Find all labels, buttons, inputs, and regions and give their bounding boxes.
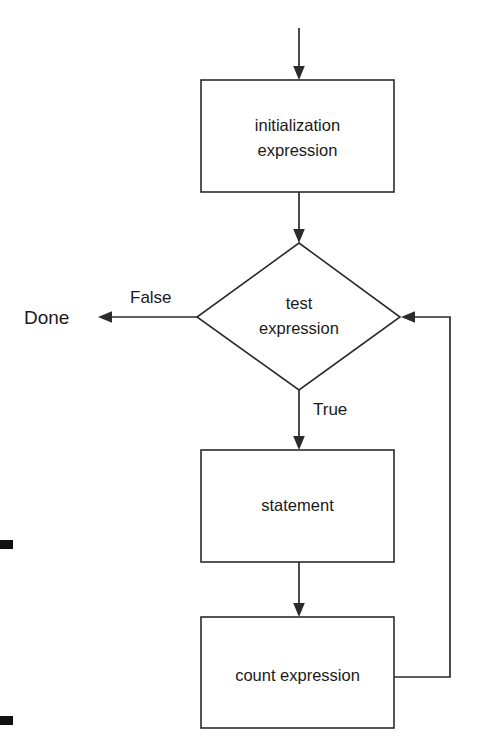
connector-statement-to-count bbox=[293, 562, 305, 617]
crop-mark-lower bbox=[0, 716, 13, 725]
node-count-expression-label: count expression bbox=[235, 666, 360, 684]
connector-entry-to-initialization bbox=[293, 28, 305, 80]
edge-label-true: True bbox=[313, 400, 347, 419]
terminal-label-done: Done bbox=[24, 307, 69, 328]
node-initialization-label-line1: initialization bbox=[255, 116, 340, 134]
edge-label-false: False bbox=[130, 288, 172, 307]
connector-test-to-done bbox=[98, 311, 197, 323]
node-statement-label: statement bbox=[261, 496, 334, 514]
node-test-label-line2: expression bbox=[259, 319, 339, 337]
node-test-expression[interactable]: test expression bbox=[197, 243, 400, 390]
crop-mark-upper bbox=[0, 540, 13, 549]
connector-count-to-test-loop bbox=[393, 311, 450, 677]
flowchart-diagram: initialization expression test expressio… bbox=[0, 0, 483, 756]
node-initialization-expression[interactable]: initialization expression bbox=[201, 80, 394, 192]
node-initialization-label-line2: expression bbox=[258, 141, 338, 159]
node-count-expression[interactable]: count expression bbox=[201, 617, 394, 728]
node-test-label-line1: test bbox=[286, 294, 313, 312]
node-statement[interactable]: statement bbox=[201, 450, 394, 562]
flowchart-canvas: initialization expression test expressio… bbox=[0, 0, 483, 756]
connector-test-to-statement bbox=[293, 390, 305, 450]
connector-initialization-to-test bbox=[293, 192, 305, 243]
